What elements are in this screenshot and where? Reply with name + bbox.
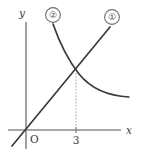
coordinate-plane-svg: ① ② y x O 3	[0, 0, 143, 157]
origin-label: O	[30, 133, 39, 145]
series-curve-2	[53, 24, 129, 97]
x-axis-label: x	[126, 124, 132, 136]
x-tick-label-3: 3	[73, 134, 80, 146]
math-figure: ① ② y x O 3	[0, 0, 143, 157]
curve-label-1-text: ①	[108, 12, 116, 22]
y-axis-label: y	[18, 7, 26, 19]
curve-label-2-text: ②	[49, 10, 57, 20]
